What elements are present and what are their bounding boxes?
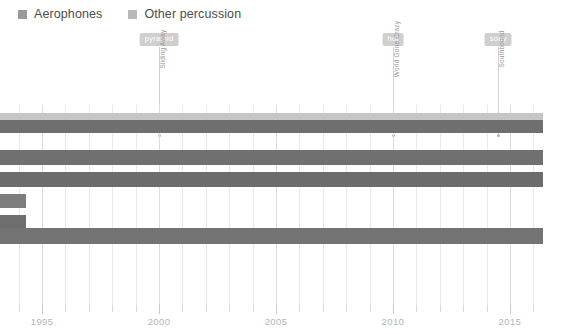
axis-tick-minor bbox=[89, 305, 90, 312]
annotation-label: Sliding Away bbox=[159, 29, 166, 68]
axis-tick-label: 2015 bbox=[499, 316, 522, 327]
annotation-label: World Gone Crazy bbox=[393, 21, 400, 78]
annotation-layer: pyramidSliding AwayhoiWorld Gone Crazyso… bbox=[0, 0, 579, 120]
bar-2[interactable] bbox=[0, 120, 543, 133]
annotation-label: Southbound bbox=[498, 30, 505, 67]
axis-tick-minor bbox=[136, 305, 137, 312]
axis-tick-label: 1995 bbox=[31, 316, 54, 327]
axis-tick-minor bbox=[440, 305, 441, 312]
axis-tick-minor bbox=[65, 305, 66, 312]
axis-tick-major bbox=[276, 305, 277, 314]
bar-7[interactable] bbox=[0, 228, 543, 244]
bar-series-group bbox=[0, 105, 579, 305]
axis-tick-major bbox=[510, 305, 511, 314]
axis-tick-minor bbox=[463, 305, 464, 312]
axis-tick-minor bbox=[416, 305, 417, 312]
axis-tick-label: 2010 bbox=[382, 316, 405, 327]
bar-4[interactable] bbox=[0, 172, 543, 187]
bar-5[interactable] bbox=[0, 194, 26, 208]
axis-tick-minor bbox=[487, 305, 488, 312]
axis-tick-minor bbox=[346, 305, 347, 312]
axis-tick-major bbox=[42, 305, 43, 314]
axis-tick-minor bbox=[182, 305, 183, 312]
axis-tick-minor bbox=[206, 305, 207, 312]
timeline-bar-chart: AerophonesOther percussion pyramidSlidin… bbox=[0, 0, 579, 334]
axis-tick-label: 2005 bbox=[265, 316, 288, 327]
axis-tick-minor bbox=[533, 305, 534, 312]
axis-tick-minor bbox=[19, 305, 20, 312]
bar-3[interactable] bbox=[0, 150, 543, 165]
axis-tick-minor bbox=[253, 305, 254, 312]
bar-1[interactable] bbox=[0, 113, 543, 120]
axis-tick-minor bbox=[323, 305, 324, 312]
axis-tick-minor bbox=[112, 305, 113, 312]
axis-tick-minor bbox=[370, 305, 371, 312]
axis-tick-major bbox=[159, 305, 160, 314]
axis-tick-minor bbox=[229, 305, 230, 312]
axis-tick-label: 2000 bbox=[148, 316, 171, 327]
axis-tick-major bbox=[393, 305, 394, 314]
axis-tick-minor bbox=[299, 305, 300, 312]
bar-6[interactable] bbox=[0, 215, 26, 229]
x-axis: 19952000200520102015 bbox=[0, 305, 579, 334]
plot-area bbox=[0, 105, 579, 305]
